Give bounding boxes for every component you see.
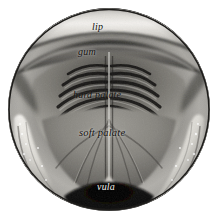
label-hard-palate: hard palate — [73, 90, 121, 100]
label-soft-palate: soft palate — [79, 128, 125, 139]
anatomical-plate: lip gum hard palate soft palate vula — [0, 0, 216, 224]
label-lip: lip — [92, 22, 103, 32]
label-gum: gum — [78, 47, 96, 57]
label-uvula: vula — [97, 182, 115, 192]
